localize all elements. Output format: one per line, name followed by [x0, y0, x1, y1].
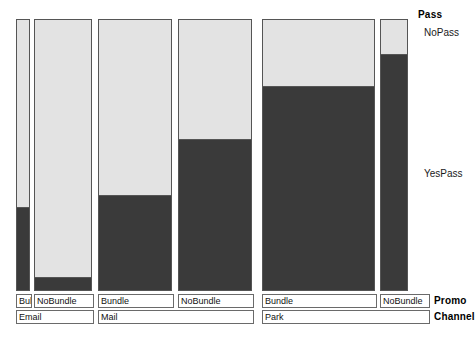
- mosaic-bar-email-bundle[interactable]: [16, 19, 30, 291]
- segment-yespass-park-bundle[interactable]: [263, 86, 374, 290]
- promo-variable-name: Promo: [434, 294, 467, 308]
- promo-axis-strip: BulNoBundleBundleNoBundleBundleNoBundle: [0, 294, 476, 308]
- segment-yespass-mail-nobundle[interactable]: [179, 139, 251, 290]
- channel-axis-strip: EmailMailPark: [0, 310, 476, 324]
- segment-yespass-email-nobundle[interactable]: [35, 277, 91, 290]
- response-variable-title: Pass: [418, 9, 442, 20]
- channel-category-box-2[interactable]: Park: [262, 310, 430, 324]
- plot-area: [0, 0, 476, 292]
- promo-category-box-0[interactable]: Bul: [16, 294, 32, 308]
- promo-category-box-2[interactable]: Bundle: [98, 294, 174, 308]
- segment-nopass-email-nobundle[interactable]: [35, 20, 91, 280]
- mosaic-plot-root: Pass NoPass YesPass BulNoBundleBundleNoB…: [0, 0, 476, 338]
- segment-yespass-email-bundle[interactable]: [17, 207, 29, 290]
- segment-yespass-park-nobundle[interactable]: [381, 54, 407, 290]
- response-category-nopass-label: NoPass: [424, 27, 459, 38]
- mosaic-bar-park-bundle[interactable]: [262, 19, 375, 291]
- channel-category-box-0[interactable]: Email: [16, 310, 94, 324]
- promo-category-box-5[interactable]: NoBundle: [380, 294, 430, 308]
- segment-nopass-park-bundle[interactable]: [263, 20, 374, 89]
- promo-category-box-3[interactable]: NoBundle: [178, 294, 254, 308]
- mosaic-bar-park-nobundle[interactable]: [380, 19, 408, 291]
- mosaic-bar-mail-bundle[interactable]: [98, 19, 172, 291]
- segment-nopass-park-nobundle[interactable]: [381, 20, 407, 57]
- mosaic-bar-mail-nobundle[interactable]: [178, 19, 252, 291]
- channel-variable-name: Channel: [434, 310, 475, 324]
- segment-nopass-mail-nobundle[interactable]: [179, 20, 251, 142]
- response-category-yespass-label: YesPass: [424, 168, 463, 179]
- segment-yespass-mail-bundle[interactable]: [99, 195, 171, 290]
- channel-category-box-1[interactable]: Mail: [98, 310, 254, 324]
- segment-nopass-email-bundle[interactable]: [17, 20, 29, 210]
- segment-nopass-mail-bundle[interactable]: [99, 20, 171, 198]
- promo-category-box-1[interactable]: NoBundle: [34, 294, 94, 308]
- mosaic-bar-email-nobundle[interactable]: [34, 19, 92, 291]
- promo-category-box-4[interactable]: Bundle: [262, 294, 377, 308]
